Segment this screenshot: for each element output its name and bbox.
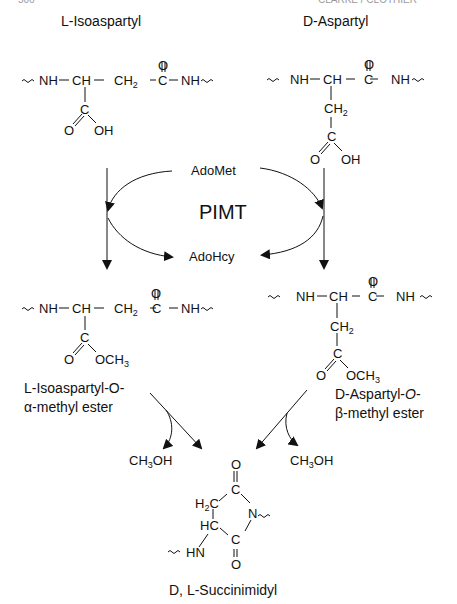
- atom-ch2: CH2: [114, 74, 138, 87]
- label-d-aspartyl: D-Aspartyl: [303, 14, 368, 28]
- atom-ch: CH: [323, 73, 342, 86]
- label-adohcy: AdoHcy: [189, 250, 235, 263]
- label-l-isoaspartyl-ester-line2: α-methyl ester: [24, 400, 113, 414]
- atom-nh-right: NH: [181, 302, 200, 315]
- atom-o-top: O: [231, 458, 241, 471]
- atom-side-c: C: [333, 347, 342, 360]
- atom-side-c: C: [80, 103, 89, 116]
- atom-side-c: C: [327, 130, 336, 143]
- label-succinimidyl: D, L-Succinimidyl: [169, 583, 277, 597]
- label-methanol-left: CH3OH: [129, 454, 172, 467]
- atom-side-o: O: [64, 353, 74, 366]
- atom-carbonyl-o: O: [364, 58, 374, 71]
- atom-ch2: CH2: [324, 102, 348, 115]
- wavy-bond-icon: [22, 80, 34, 83]
- atom-side-o: O: [316, 369, 326, 382]
- atom-h2c: H2C: [195, 497, 219, 510]
- atom-side-c: C: [80, 331, 89, 344]
- atom-c: C: [364, 73, 373, 86]
- atom-nh: NH: [296, 290, 315, 303]
- atom-side-oh: OH: [341, 153, 361, 166]
- atom-side-och3: OCH3: [346, 369, 380, 382]
- atom-ch2: CH2: [330, 320, 354, 333]
- bond-and-arrow-layer: [0, 0, 457, 604]
- atom-side-oh: OH: [94, 124, 114, 137]
- atom-ch: CH: [72, 74, 91, 87]
- label-l-isoaspartyl: L-Isoaspartyl: [61, 14, 141, 28]
- label-adomet: AdoMet: [191, 164, 236, 177]
- atom-ch: CH: [329, 290, 348, 303]
- atom-side-o: O: [64, 124, 74, 137]
- atom-c: C: [368, 290, 377, 303]
- atom-nh: NH: [290, 73, 309, 86]
- atom-side-och3: OCH3: [95, 353, 129, 366]
- atom-nh-right: NH: [391, 73, 410, 86]
- atom-nh-right: NH: [181, 74, 200, 87]
- atom-o-bottom: O: [231, 558, 241, 571]
- atom-c: C: [152, 302, 161, 315]
- atom-carbonyl-o: O: [158, 59, 168, 72]
- atom-nh: NH: [39, 302, 58, 315]
- label-l-isoaspartyl-ester-line1: L-Isoaspartyl-O-: [24, 381, 124, 395]
- atom-ch2: CH2: [114, 302, 138, 315]
- label-d-aspartyl-ester-line2: β-methyl ester: [335, 406, 424, 420]
- atom-hc: HC: [200, 519, 219, 532]
- atom-n: N: [248, 507, 257, 520]
- atom-ch: CH: [72, 302, 91, 315]
- atom-c-bottom: C: [231, 533, 240, 546]
- label-pimt: PIMT: [199, 202, 247, 222]
- atom-c: C: [158, 74, 167, 87]
- atom-side-o: O: [310, 153, 320, 166]
- atom-nh-right: NH: [396, 290, 415, 303]
- atom-nh: NH: [39, 74, 58, 87]
- atom-c-top: C: [231, 483, 240, 496]
- atom-carbonyl-o: O: [368, 275, 378, 288]
- atom-carbonyl-o: O: [151, 287, 161, 300]
- atom-hn: HN: [186, 546, 205, 559]
- label-methanol-right: CH3OH: [290, 454, 333, 467]
- label-d-aspartyl-ester-line1: D-Aspartyl-O-: [335, 387, 421, 401]
